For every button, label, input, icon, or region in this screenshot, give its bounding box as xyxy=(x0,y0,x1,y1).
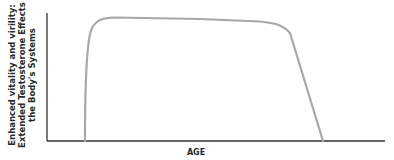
chart-plot xyxy=(0,0,394,160)
x-axis-label: AGE xyxy=(187,148,205,157)
curve xyxy=(85,18,323,142)
